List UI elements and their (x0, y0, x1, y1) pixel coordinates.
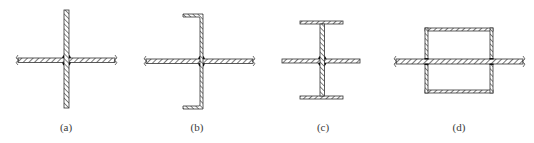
panel-label-b: (b) (191, 121, 204, 134)
break-line-right (252, 56, 255, 66)
panel-d: (d) (394, 28, 525, 134)
web (320, 24, 325, 96)
panel-label-d: (d) (453, 121, 466, 134)
break-line-right (522, 56, 525, 67)
top-flange (300, 21, 343, 24)
break-line-right (114, 55, 117, 65)
box-section-top (425, 28, 493, 31)
break-line-left (144, 56, 147, 66)
diagram-canvas: (a) (b) (c) (0, 0, 534, 143)
horizontal-plate (396, 59, 523, 64)
panel-a: (a) (16, 10, 117, 134)
box-section-bottom (425, 90, 493, 93)
horizontal-plate (146, 59, 253, 64)
panel-c: (c) (282, 21, 360, 134)
panel-label-a: (a) (60, 121, 73, 134)
break-line-left (394, 56, 397, 67)
panel-b: (b) (144, 14, 255, 134)
bottom-flange (300, 96, 343, 99)
panel-label-c: (c) (317, 121, 330, 134)
vertical-plate (64, 10, 69, 108)
break-line-left (16, 55, 19, 65)
